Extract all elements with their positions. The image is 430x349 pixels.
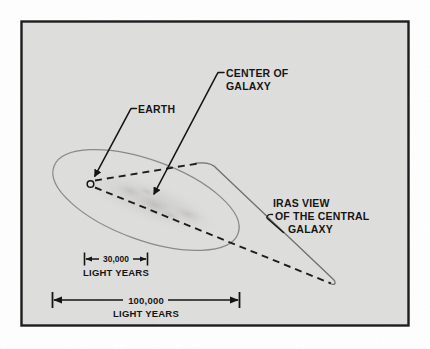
dim-30000-unit: LIGHT YEARS <box>83 267 149 278</box>
dim-100000-unit: LIGHT YEARS <box>113 308 179 319</box>
dim-30000-value: 30,000 <box>103 254 129 264</box>
label-center-of-galaxy-line2: GALAXY <box>226 80 271 92</box>
figure-root: 30,000 LIGHT YEARS 100,000 LIGHT YEARS E… <box>0 0 430 349</box>
dim-100000-value: 100,000 <box>128 295 164 306</box>
label-iras-line3: GALAXY <box>288 223 333 235</box>
label-earth: EARTH <box>138 103 175 115</box>
earth-marker <box>87 181 94 188</box>
galaxy-diagram: 30,000 LIGHT YEARS 100,000 LIGHT YEARS E… <box>0 0 430 349</box>
label-iras-line1: IRAS VIEW <box>273 197 330 209</box>
label-iras-line2: OF THE CENTRAL <box>275 210 370 222</box>
earth-circle <box>87 181 94 188</box>
label-center-of-galaxy-line1: CENTER OF <box>226 67 289 79</box>
